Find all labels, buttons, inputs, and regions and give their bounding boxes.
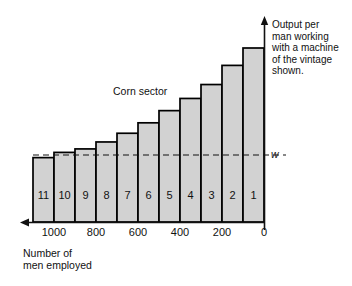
bar-number-label: 1	[243, 190, 264, 201]
y-axis-title: Output per man working with a machine of…	[272, 19, 350, 77]
x-axis-tick-label: 1000	[34, 227, 74, 238]
bar	[180, 98, 201, 222]
bar	[96, 142, 117, 222]
wage-line-label: w	[271, 149, 279, 160]
bar-number-label: 9	[75, 190, 96, 201]
x-axis-arrow-icon	[20, 219, 29, 227]
x-axis-tick-label: 200	[202, 227, 242, 238]
bar-number-label: 10	[54, 190, 75, 201]
bar	[138, 123, 159, 222]
bar-number-label: 6	[138, 190, 159, 201]
bar-number-label: 2	[222, 190, 243, 201]
bar-number-label: 4	[180, 190, 201, 201]
bar	[159, 111, 180, 222]
x-axis-tick-label: 400	[160, 227, 200, 238]
bar-number-label: 3	[201, 190, 222, 201]
x-axis-tick-label: 0	[244, 227, 284, 238]
x-axis-tick-label: 600	[118, 227, 158, 238]
y-axis-arrow-icon	[261, 16, 268, 25]
bar-number-label: 11	[33, 190, 54, 201]
bar	[201, 85, 222, 222]
bar	[54, 152, 75, 222]
bar-number-label: 7	[117, 190, 138, 201]
x-axis-tick-label: 800	[76, 227, 116, 238]
series-label: Corn sector	[113, 86, 193, 97]
bar	[117, 133, 138, 222]
bar	[75, 149, 96, 222]
chart-figure: Output per man working with a machine of…	[0, 0, 352, 286]
bar-number-label: 5	[159, 190, 180, 201]
x-axis-title: Number of men employed	[23, 247, 143, 271]
bar-number-label: 8	[96, 190, 117, 201]
